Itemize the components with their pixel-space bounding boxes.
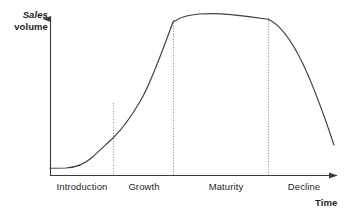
stage-label-growth: Growth	[116, 181, 172, 192]
stage-label-decline: Decline	[272, 181, 336, 192]
sales-volume-curve	[50, 14, 334, 169]
x-axis-title: Time	[315, 197, 337, 209]
product-life-cycle-figure: Sales volume Time Introduction Growth Ma…	[0, 0, 355, 215]
stage-divider-group	[114, 18, 269, 175]
y-axis-title: Sales volume	[6, 9, 48, 32]
y-axis-title-line2: volume	[6, 21, 48, 33]
stage-label-introduction: Introduction	[46, 181, 118, 192]
y-axis-title-line1: Sales	[6, 9, 48, 21]
axis-group	[50, 19, 337, 176]
stage-label-maturity: Maturity	[186, 181, 266, 192]
